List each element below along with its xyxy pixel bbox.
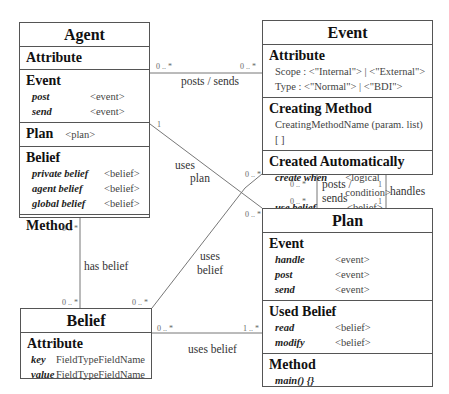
posts-top-right-multiplicity: 1 [378,180,382,189]
plan-title: Plan [263,209,432,232]
plan-used-belief-heading: Used Belief [269,303,426,320]
agent-belief-top-multiplicity: 0 .. * [62,224,78,233]
event-class-box[interactable]: Event Attribute Scope : <"Internal"> | <… [262,20,433,175]
agent-event-row: send<event> [26,104,143,119]
agent-event-heading: Event [26,72,143,89]
posts-bottom-left-multiplicity: 0 .. * [290,197,306,206]
agent-belief-row: global belief<belief> [26,196,143,211]
event-scope-attribute: Scope : <"Internal"> | <"External"> [269,64,426,79]
plan-used-belief-row: modify<belief> [269,335,426,350]
plan-method-row: main() {} [269,373,426,388]
belief-attribute-row: valueFieldTypeFieldName [27,367,145,382]
plan-event-row: post<event> [269,267,426,282]
plan-event-heading: Event [269,235,426,252]
agent-belief-row: private belief<belief> [26,166,143,181]
event-belief-label-line1: uses [190,250,230,263]
agent-event-row: post<event> [26,89,143,104]
agent-belief-row: agent belief<belief> [26,181,143,196]
event-created-automatically-heading: Created Automatically [269,153,426,170]
agent-event-right-multiplicity: 0 .. * [240,62,256,71]
event-belief-bottom-multiplicity: 0 .. * [132,298,148,307]
plan-method-heading: Method [269,356,426,373]
has-belief-label: has belief [84,260,128,273]
posts-bottom-right-multiplicity: 1 [378,197,382,206]
event-belief-label-line2: belief [190,264,230,277]
posts-sends-label-line1: posts / [322,178,352,191]
handles-relation-label: handles [390,185,425,198]
agent-plan-left-multiplicity: 1 [157,120,161,129]
agent-plan-label-line2: plan [180,172,220,185]
plan-event-row: handle<event> [269,252,426,267]
belief-class-box[interactable]: Belief Attribute keyFieldTypeFieldName v… [20,308,152,379]
belief-attribute-row: keyFieldTypeFieldName [27,352,145,367]
uses-belief-label: uses belief [170,343,255,356]
event-type-attribute: Type : <"Normal"> | <"BDI"> [269,79,426,94]
event-title: Event [263,21,432,44]
agent-plan-heading: Plan<plan> [26,125,143,143]
plan-class-box[interactable]: Plan Event handle<event> post<event> sen… [262,208,433,387]
agent-belief-bottom-multiplicity: 0 .. * [62,298,78,307]
posts-top-left-multiplicity: 0 .. * [290,180,306,189]
posts-sends-label-line2: sends [322,192,348,205]
event-creating-method-value: CreatingMethodName (param. list) [ ] [269,117,426,147]
belief-plan-right-multiplicity: 1 .. * [243,324,259,333]
agent-event-relation-label: posts / sends [170,75,250,88]
plan-event-row: send<event> [269,282,426,297]
agent-plan-right-multiplicity: 0 .. * [245,170,261,179]
agent-class-box[interactable]: Agent Attribute Event post<event> send<e… [19,22,150,218]
event-attribute-heading: Attribute [269,47,426,64]
belief-plan-left-multiplicity: 0 .. * [157,324,173,333]
agent-event-left-multiplicity: 0 .. * [156,62,172,71]
agent-plan-label-line1: uses [165,159,205,172]
belief-attribute-heading: Attribute [27,335,145,352]
belief-title: Belief [21,309,151,332]
plan-used-belief-row: read<belief> [269,320,426,335]
agent-method-heading: Method [26,217,143,234]
event-belief-top-multiplicity: 0 .. * [245,210,261,219]
agent-belief-heading: Belief [26,149,143,166]
agent-attribute-heading: Attribute [26,49,143,66]
agent-title: Agent [20,23,149,46]
event-creating-method-heading: Creating Method [269,100,426,117]
